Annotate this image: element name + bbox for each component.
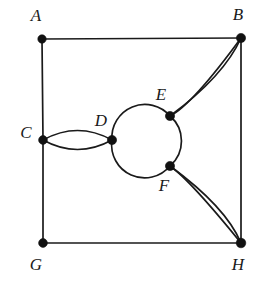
vertex-f [165,161,174,170]
edge-E-F-arc [170,116,181,166]
vertex-label-d: D [94,111,108,130]
edge-F-H-outer [170,166,241,243]
vertex-d [107,135,116,144]
edge-F-D-arc [112,140,170,178]
edge-C-D-upper [43,131,112,141]
edge-E-B-outer [170,38,241,116]
edge-F-H-inner [170,166,241,243]
vertex-label-b: B [233,5,244,24]
vertex-g [39,239,48,248]
vertex-label-g: G [30,255,42,274]
vertex-c [39,136,48,145]
vertex-e [165,111,174,120]
vertex-label-c: C [20,123,32,142]
edges-layer [42,38,241,243]
vertex-label-h: H [231,255,246,274]
vertex-h [236,238,246,248]
graph-canvas: ABCDEFGH [0,0,260,287]
edge-A-C [42,39,43,140]
edge-A-B [42,38,241,39]
vertices-layer [38,33,246,247]
vertex-label-f: F [158,176,170,195]
edge-D-E-arc [112,104,170,140]
vertex-a [38,35,46,43]
vertex-label-a: A [30,6,42,25]
vertex-label-e: E [155,85,167,104]
vertex-b [236,33,245,42]
edge-C-D-lower [43,140,112,150]
graph-figure: ABCDEFGH [0,0,260,287]
edge-E-B-inner [170,38,241,116]
labels-layer: ABCDEFGH [20,5,246,274]
